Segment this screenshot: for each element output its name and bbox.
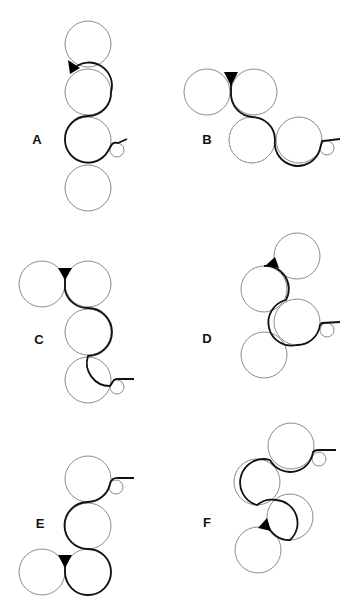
nip-wedge-icon	[58, 555, 72, 568]
nip-wedge-icon	[58, 268, 72, 280]
panel-label-b: B	[202, 132, 211, 147]
panel-label-a: A	[32, 132, 41, 147]
roller-circle	[65, 357, 111, 403]
roller-circle	[276, 117, 322, 163]
roller-circle	[241, 332, 287, 378]
roller-circle	[184, 69, 230, 115]
panel-b	[184, 69, 340, 166]
panel-label-d: D	[202, 331, 211, 346]
web-path-line	[65, 276, 134, 386]
web-path-line	[264, 266, 340, 346]
roller-circle	[65, 261, 111, 307]
panel-f	[234, 423, 336, 573]
panel-label-e: E	[36, 516, 45, 531]
small-guide-roller	[320, 323, 334, 337]
panel-a	[65, 21, 127, 211]
roller-diagram-canvas	[0, 0, 364, 606]
web-path-line	[64, 478, 134, 595]
small-guide-roller	[312, 452, 326, 466]
web-path-line	[240, 450, 336, 540]
roller-circle	[65, 165, 111, 211]
panel-d	[241, 233, 340, 378]
roller-circle	[19, 549, 65, 595]
panel-label-f: F	[203, 515, 211, 530]
roller-circle	[19, 261, 65, 307]
nip-wedge-icon	[258, 518, 271, 531]
roller-circle	[241, 266, 287, 312]
roller-circle	[65, 21, 111, 67]
panel-label-c: C	[34, 332, 43, 347]
roller-circle	[231, 69, 277, 115]
roller-circle	[268, 423, 314, 469]
roller-circle	[65, 69, 111, 115]
roller-circle	[65, 309, 111, 355]
web-path-line	[65, 62, 127, 162]
